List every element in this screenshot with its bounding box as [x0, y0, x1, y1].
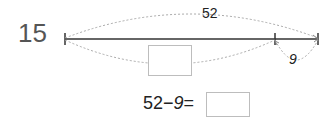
equation-equals: = — [184, 94, 195, 112]
total-label: 52 — [202, 6, 218, 20]
equation-left: 52 — [143, 94, 163, 112]
total-brace-arc — [65, 14, 318, 38]
equation-operator: − — [163, 94, 174, 112]
unknown-answer-box[interactable] — [148, 45, 192, 76]
equation-right: 9 — [174, 94, 184, 112]
result-answer-box[interactable] — [206, 92, 250, 117]
part-label: 9 — [289, 52, 297, 66]
equation: 52 − 9 = — [143, 94, 194, 112]
